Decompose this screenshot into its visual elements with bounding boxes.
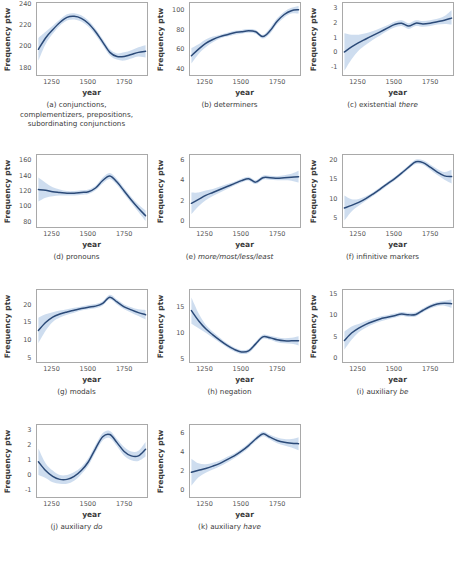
y-axis-ticks-e: 0246 <box>167 152 187 230</box>
plot-area-f <box>342 154 454 228</box>
x-axis-label-a: year <box>36 88 148 97</box>
y-tick-label: 6 <box>180 429 184 437</box>
y-axis-ticks-a: 180200220240 <box>14 0 34 78</box>
x-tick-label: 1500 <box>386 230 403 238</box>
y-axis-label-d: Frequency ptw <box>1 152 15 230</box>
y-tick-label: 5 <box>180 355 184 363</box>
y-tick-label: 100 <box>19 202 31 210</box>
panel-caption-d: (d) pronouns <box>2 252 152 262</box>
x-tick-label: 1250 <box>349 365 366 373</box>
y-axis-ticks-g: 5101520 <box>14 287 34 365</box>
y-tick-label: 5 <box>333 333 337 341</box>
x-axis-label-g: year <box>36 375 148 384</box>
plot-area-k <box>189 424 301 498</box>
y-tick-label: 10 <box>329 311 337 319</box>
y-axis-ticks-i: 051015 <box>320 287 340 365</box>
y-tick-label: 2 <box>180 467 184 475</box>
x-tick-label: 1250 <box>349 230 366 238</box>
x-tick-label: 1750 <box>269 365 286 373</box>
plot-area-c <box>342 2 454 76</box>
y-tick-label: 0 <box>180 217 184 225</box>
y-tick-label: 4 <box>180 176 184 184</box>
y-tick-label: 15 <box>176 303 184 311</box>
chart-panel-e: Frequency ptw0246125015001750year(e) mor… <box>153 152 306 287</box>
confidence-band <box>344 300 451 350</box>
plot-area-g <box>36 289 148 363</box>
plot-area-i <box>342 289 454 363</box>
plot-area-a <box>36 2 148 76</box>
y-tick-label: 20 <box>23 301 31 309</box>
y-tick-label: 0 <box>333 48 337 56</box>
chart-area-d: Frequency ptw80100120140160125015001750y… <box>2 152 152 248</box>
y-tick-label: 2 <box>27 441 31 449</box>
chart-area-e: Frequency ptw0246125015001750year <box>155 152 305 248</box>
panel-caption-h: (h) negation <box>155 387 305 397</box>
panel-caption-k: (k) auxiliary have <box>155 522 305 532</box>
y-tick-label: 40 <box>176 65 184 73</box>
plot-area-h <box>189 289 301 363</box>
chart-panel-i: Frequency ptw051015125015001750year(i) a… <box>306 287 459 422</box>
plot-area-j <box>36 424 148 498</box>
confidence-band <box>38 430 145 484</box>
y-tick-label: 240 <box>19 0 31 8</box>
y-tick-label: 15 <box>329 290 337 298</box>
y-axis-label-g: Frequency ptw <box>1 287 15 365</box>
plot-area-e <box>189 154 301 228</box>
x-tick-label: 1500 <box>386 78 403 86</box>
x-tick-label: 1250 <box>196 500 213 508</box>
y-tick-label: 3 <box>333 4 337 12</box>
chart-panel-h: Frequency ptw51015125015001750year(h) ne… <box>153 287 306 422</box>
y-tick-label: 0 <box>27 471 31 479</box>
confidence-band <box>191 298 298 355</box>
panel-caption-c: (c) existential there <box>308 100 458 110</box>
y-tick-label: 140 <box>19 172 31 180</box>
confidence-band <box>38 295 145 343</box>
y-tick-label: 100 <box>172 6 184 14</box>
y-tick-label: 2 <box>180 197 184 205</box>
y-axis-ticks-h: 51015 <box>167 287 187 365</box>
chart-panel-g: Frequency ptw5101520125015001750year(g) … <box>0 287 153 422</box>
y-tick-label: -1 <box>25 486 31 494</box>
panel-caption-f: (f) infinitive markers <box>308 252 458 262</box>
panel-caption-b: (b) determiners <box>155 100 305 110</box>
x-tick-label: 1500 <box>80 230 97 238</box>
confidence-band <box>344 10 451 70</box>
confidence-band <box>191 432 298 486</box>
chart-panel-c: Frequency ptw-10123125015001750year(c) e… <box>306 0 459 152</box>
chart-area-f: Frequency ptw5101520125015001750year <box>308 152 458 248</box>
x-axis-label-f: year <box>342 240 454 249</box>
x-tick-label: 1750 <box>269 500 286 508</box>
y-tick-label: 2 <box>333 19 337 27</box>
y-tick-label: 80 <box>23 218 31 226</box>
y-tick-label: 220 <box>19 21 31 29</box>
caption-italic-term: do <box>94 522 103 531</box>
y-axis-label-i: Frequency ptw <box>307 287 321 365</box>
x-axis-label-k: year <box>189 510 301 519</box>
x-tick-label: 1250 <box>196 365 213 373</box>
plot-area-d <box>36 154 148 228</box>
trend-line <box>344 303 451 340</box>
y-tick-label: 0 <box>180 486 184 494</box>
chart-area-g: Frequency ptw5101520125015001750year <box>2 287 152 383</box>
x-tick-label: 1250 <box>43 500 60 508</box>
chart-area-j: Frequency ptw-10123125015001750year <box>2 422 152 518</box>
panel-caption-g: (g) modals <box>2 387 152 397</box>
x-tick-label: 1750 <box>269 230 286 238</box>
panel-caption-i: (i) auxiliary be <box>308 387 458 397</box>
y-axis-label-c: Frequency ptw <box>307 0 321 78</box>
y-tick-label: 1 <box>333 34 337 42</box>
panel-caption-e: (e) more/most/less/least <box>155 252 305 262</box>
y-tick-label: 5 <box>27 354 31 362</box>
x-tick-label: 1500 <box>233 78 250 86</box>
y-tick-label: 5 <box>333 214 337 222</box>
y-tick-label: -1 <box>331 63 337 71</box>
x-tick-label: 1750 <box>116 500 133 508</box>
confidence-band <box>191 6 298 64</box>
y-axis-label-a: Frequency ptw <box>1 0 15 78</box>
x-tick-label: 1750 <box>422 365 439 373</box>
y-tick-label: 15 <box>329 175 337 183</box>
x-axis-label-b: year <box>189 88 301 97</box>
y-tick-label: 80 <box>176 26 184 34</box>
y-axis-label-f: Frequency ptw <box>307 152 321 230</box>
y-axis-ticks-k: 0246 <box>167 422 187 500</box>
